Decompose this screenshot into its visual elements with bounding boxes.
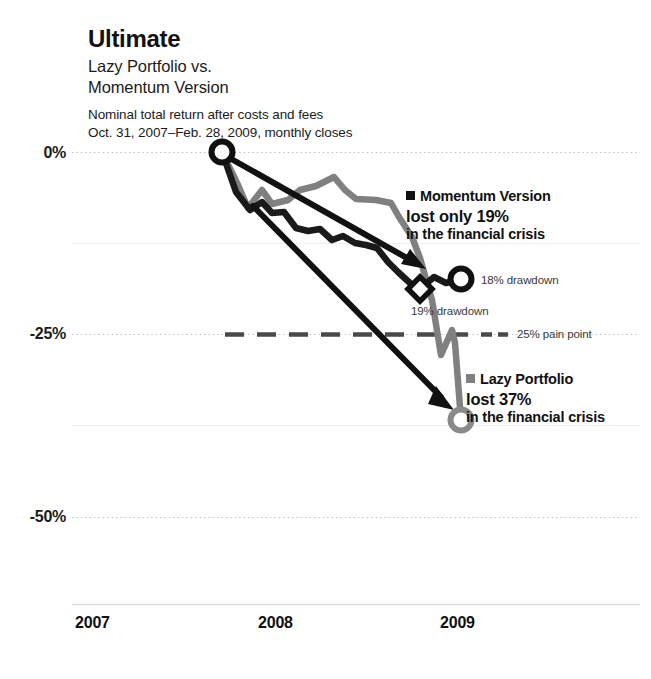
callout-lazy-line-2: lost 37% xyxy=(466,389,605,409)
label-25pct-pain-point: 25% pain point xyxy=(517,328,592,340)
legend-swatch-momentum-icon xyxy=(406,191,415,200)
label-19pct-drawdown: 19% drawdown xyxy=(411,305,488,317)
callout-momentum-line-1: Momentum Version xyxy=(406,188,551,206)
origin-marker xyxy=(212,142,233,163)
marker-momentum-endpoint xyxy=(451,269,472,290)
callout-lazy-text-1: Lazy Portfolio xyxy=(480,371,573,387)
callout-momentum-line-2: lost only 19% xyxy=(406,206,551,226)
label-18pct-drawdown: 18% drawdown xyxy=(481,274,558,286)
callout-lazy-portfolio: Lazy Portfolio lost 37% in the financial… xyxy=(466,371,605,427)
legend-swatch-lazy-icon xyxy=(466,374,475,383)
chart-page: Ultimate Lazy Portfolio vs. Momentum Ver… xyxy=(0,0,651,679)
callout-lazy-line-1: Lazy Portfolio xyxy=(466,371,605,389)
callout-lazy-line-3: in the financial crisis xyxy=(466,409,605,427)
callout-momentum-version: Momentum Version lost only 19% in the fi… xyxy=(406,188,551,244)
callout-momentum-line-3: in the financial crisis xyxy=(406,226,551,244)
callout-momentum-text-1: Momentum Version xyxy=(420,188,551,204)
